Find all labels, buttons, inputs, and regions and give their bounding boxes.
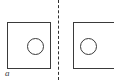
part-left-label: a — [5, 68, 10, 79]
centerline-divider — [58, 0, 59, 80]
part-right-hole-circle-icon — [80, 38, 97, 55]
diagram-canvas: a — [0, 0, 114, 80]
part-left-hole-circle-icon — [27, 38, 44, 55]
